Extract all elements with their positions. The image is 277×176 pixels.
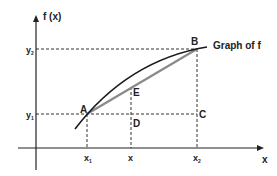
point-e-label: E — [133, 87, 140, 98]
x-axis-label: x — [262, 154, 268, 165]
point-a-label: A — [80, 104, 87, 115]
x-tick-label: x — [128, 153, 133, 163]
secant-line-ab — [87, 49, 197, 114]
function-curve — [75, 47, 207, 129]
y1-label: y1 — [26, 110, 34, 121]
y-axis-label: f (x) — [43, 11, 61, 22]
point-b-label: B — [191, 36, 198, 47]
curve-label: Graph of f — [213, 40, 261, 51]
diagram-canvas: f (x) x Graph of f A B C D E y2 y1 x1 x … — [0, 0, 277, 176]
y-axis-arrow-icon — [33, 15, 39, 22]
point-c-label: C — [199, 109, 206, 120]
point-d-label: D — [133, 118, 140, 129]
x-axis-arrow-icon — [257, 145, 264, 151]
x2-label: x2 — [193, 153, 201, 164]
y2-label: y2 — [26, 45, 34, 56]
x1-label: x1 — [84, 153, 92, 164]
